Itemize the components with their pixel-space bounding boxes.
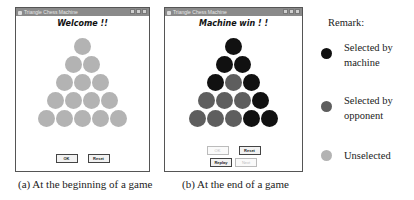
ball-unselected[interactable]	[56, 110, 73, 127]
ball-row	[16, 38, 149, 55]
ball-row	[16, 92, 149, 109]
ball-unselected[interactable]	[92, 74, 109, 91]
opponent-ball-icon	[321, 101, 332, 112]
ball-machine[interactable]	[216, 56, 233, 73]
ok-button[interactable]: OK	[207, 146, 229, 155]
minimize-icon[interactable]	[283, 9, 288, 14]
window-title: Triangle Chess Machine	[24, 9, 78, 15]
ball-machine[interactable]	[234, 56, 251, 73]
ball-unselected[interactable]	[65, 92, 82, 109]
ball-machine[interactable]	[252, 92, 269, 109]
reset-button[interactable]: Reset	[239, 146, 261, 155]
minimize-icon[interactable]	[130, 9, 135, 14]
ball-machine[interactable]	[261, 110, 278, 127]
status-heading: Machine win ! !	[165, 19, 302, 28]
ball-unselected[interactable]	[47, 92, 64, 109]
ball-machine[interactable]	[225, 38, 242, 55]
caption-a: (a) At the beginning of a game	[18, 178, 152, 190]
game-window-end: Triangle Chess Machine Machine win ! ! O…	[164, 7, 303, 172]
ball-unselected[interactable]	[74, 38, 91, 55]
caption-b: (b) At the end of a game	[182, 178, 289, 190]
window-title: Triangle Chess Machine	[173, 9, 227, 15]
close-icon[interactable]	[142, 9, 147, 14]
app-icon	[18, 11, 22, 15]
ball-opponent[interactable]	[198, 92, 215, 109]
ball-unselected[interactable]	[74, 74, 91, 91]
button-row: OKReset	[165, 146, 302, 155]
ball-unselected[interactable]	[65, 56, 82, 73]
next-button[interactable]: Next	[235, 158, 257, 167]
legend-title: Remark:	[328, 17, 364, 28]
ball-unselected[interactable]	[83, 56, 100, 73]
ball-opponent[interactable]	[225, 110, 242, 127]
maximize-icon[interactable]	[289, 9, 294, 14]
button-row: OKReset	[16, 154, 149, 163]
maximize-icon[interactable]	[136, 9, 141, 14]
title-bar: Triangle Chess Machine	[16, 8, 149, 16]
ok-button[interactable]: OK	[56, 154, 78, 163]
ball-unselected[interactable]	[74, 110, 91, 127]
ball-opponent[interactable]	[234, 92, 251, 109]
ball-row	[16, 56, 149, 73]
ball-unselected[interactable]	[38, 110, 55, 127]
ball-row	[16, 74, 149, 91]
status-heading: Welcome !!	[16, 19, 149, 28]
app-icon	[167, 11, 171, 15]
ball-machine[interactable]	[243, 110, 260, 127]
ball-triangle	[16, 38, 149, 128]
button-row: ReplayNext	[165, 158, 302, 167]
ball-opponent[interactable]	[216, 92, 233, 109]
ball-opponent[interactable]	[207, 110, 224, 127]
ball-unselected[interactable]	[56, 74, 73, 91]
ball-unselected[interactable]	[92, 110, 109, 127]
ball-row	[165, 74, 302, 91]
ball-row	[165, 110, 302, 127]
machine-ball-icon	[321, 48, 332, 59]
game-window-start: Triangle Chess Machine Welcome !! OKRese…	[15, 7, 150, 172]
replay-button[interactable]: Replay	[210, 158, 232, 167]
ball-triangle	[165, 38, 302, 128]
close-icon[interactable]	[295, 9, 300, 14]
ball-unselected[interactable]	[101, 92, 118, 109]
ball-row	[165, 92, 302, 109]
reset-button[interactable]: Reset	[88, 154, 110, 163]
title-bar: Triangle Chess Machine	[165, 8, 302, 16]
ball-row	[165, 38, 302, 55]
ball-unselected[interactable]	[83, 92, 100, 109]
unselected-ball-icon	[321, 150, 332, 161]
ball-machine[interactable]	[207, 74, 224, 91]
ball-opponent[interactable]	[189, 110, 206, 127]
ball-machine[interactable]	[243, 74, 260, 91]
ball-row	[16, 110, 149, 127]
ball-unselected[interactable]	[110, 110, 127, 127]
ball-opponent[interactable]	[225, 74, 242, 91]
ball-row	[165, 56, 302, 73]
